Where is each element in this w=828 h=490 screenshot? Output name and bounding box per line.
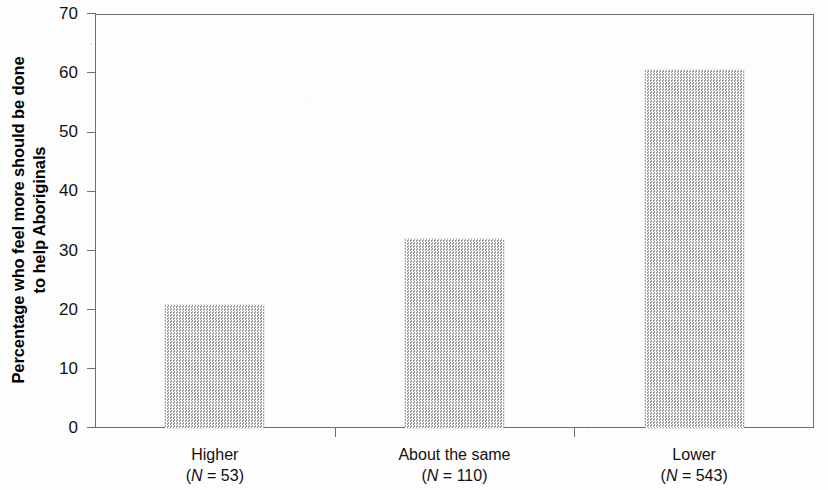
x-axis-separator-tick [574, 428, 575, 437]
y-axis-tick-label: 0 [30, 419, 78, 437]
y-axis-tick-label-text: 10 [34, 360, 78, 377]
y-axis-tick-label-text: 20 [34, 301, 78, 318]
bar [405, 239, 504, 428]
x-axis-category-name: Lower [574, 444, 814, 465]
y-axis-tick-label: 50 [30, 123, 78, 141]
y-axis-tick-label-text: 60 [34, 64, 78, 81]
bar [165, 305, 264, 428]
x-axis-separator-tick [335, 428, 336, 437]
y-axis-tick-label: 60 [30, 64, 78, 82]
x-axis-category-label: About the same(N = 110) [335, 444, 575, 486]
y-axis-tick-label-text: 30 [34, 242, 78, 259]
x-axis-category-label: Higher(N = 53) [95, 444, 335, 486]
y-axis-tick-label-text: 0 [34, 419, 78, 436]
bar [645, 70, 744, 428]
y-axis-tick-label: 40 [30, 182, 78, 200]
x-axis-category-name: About the same [335, 444, 575, 465]
y-axis-tick-label: 30 [30, 242, 78, 260]
y-axis-tick-label: 70 [30, 5, 78, 23]
x-axis-category-name: Higher [95, 444, 335, 465]
y-axis-tick-label-text: 40 [34, 182, 78, 199]
y-axis-tick-label-text: 70 [34, 5, 78, 22]
figure-canvas: Percentage who feel more should be done … [0, 0, 828, 490]
y-axis-tick-label-text: 50 [34, 123, 78, 140]
y-axis-tick-label: 10 [30, 360, 78, 378]
y-axis-tick-label: 20 [30, 301, 78, 319]
y-axis-ticks: 010203040506070 [0, 0, 96, 460]
x-axis-category-sample-size: (N = 543) [574, 465, 814, 486]
x-axis-category-sample-size: (N = 110) [335, 465, 575, 486]
x-axis-category-sample-size: (N = 53) [95, 465, 335, 486]
x-axis-category-label: Lower(N = 543) [574, 444, 814, 486]
